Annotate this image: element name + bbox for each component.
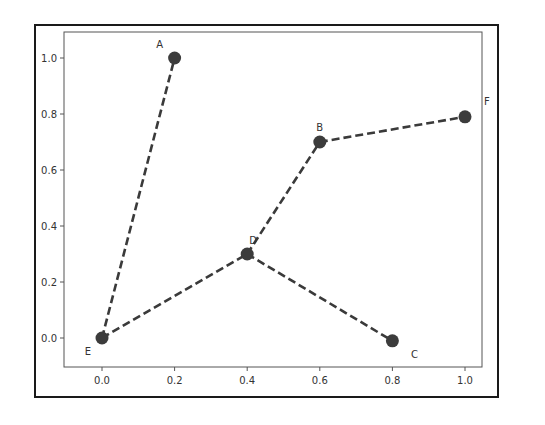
y-tick-label: 0.4 xyxy=(41,221,57,232)
x-tick-label: 1.0 xyxy=(457,375,473,386)
y-tick-label: 0.6 xyxy=(41,165,57,176)
x-axis: 0.00.20.40.60.81.0 xyxy=(94,367,473,386)
x-tick-label: 0.4 xyxy=(239,375,255,386)
y-tick-label: 0.0 xyxy=(41,333,57,344)
node-f xyxy=(459,110,472,123)
x-tick-label: 0.0 xyxy=(94,375,110,386)
node-label-c: C xyxy=(411,349,418,360)
node-label-e: E xyxy=(85,346,91,357)
node-label-d: D xyxy=(249,235,257,246)
x-tick-label: 0.6 xyxy=(312,375,328,386)
node-label-b: B xyxy=(316,122,323,133)
y-tick-label: 0.2 xyxy=(41,277,57,288)
network-chart: 0.00.20.40.60.81.0 0.00.20.40.60.81.0 AB… xyxy=(0,0,545,425)
node-b xyxy=(313,136,326,149)
node-c xyxy=(386,334,399,347)
y-axis: 0.00.20.40.60.81.0 xyxy=(41,53,64,344)
node-d xyxy=(241,248,254,261)
plot-area xyxy=(64,32,482,367)
y-tick-label: 0.8 xyxy=(41,109,57,120)
y-tick-label: 1.0 xyxy=(41,53,57,64)
node-label-a: A xyxy=(156,39,163,50)
node-label-f: F xyxy=(484,96,490,107)
x-tick-label: 0.8 xyxy=(384,375,400,386)
node-a xyxy=(168,52,181,65)
node-e xyxy=(96,332,109,345)
x-tick-label: 0.2 xyxy=(167,375,183,386)
